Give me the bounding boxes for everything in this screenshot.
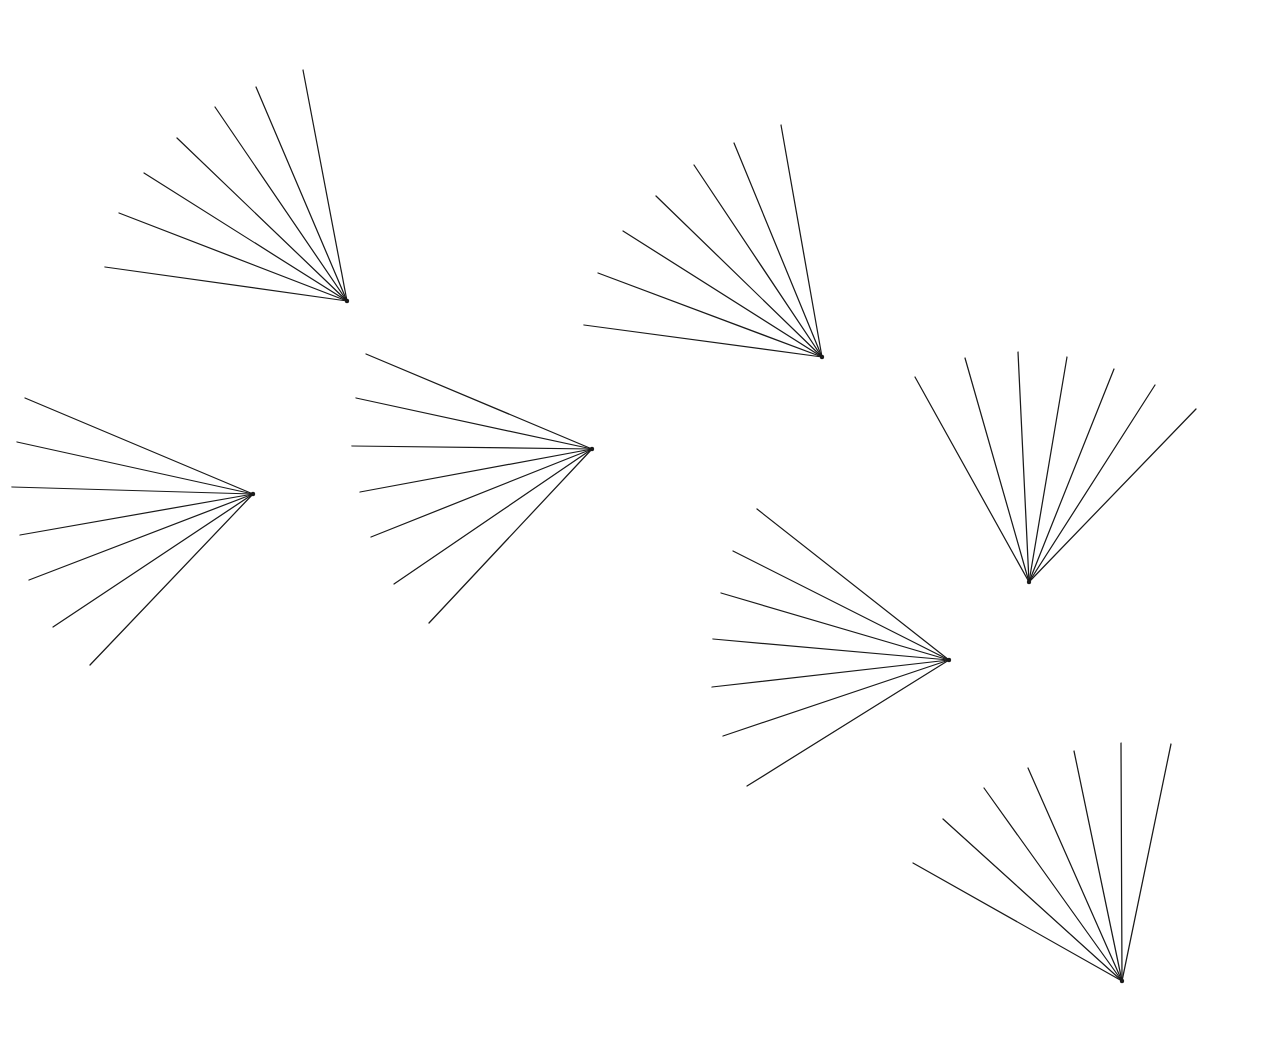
fan-6-vertex — [947, 658, 951, 662]
fan-1-vertex — [345, 299, 349, 303]
fan-2-vertex — [251, 492, 255, 496]
radial-fans-svg — [0, 0, 1274, 1054]
fan-5-vertex — [1027, 580, 1031, 584]
fan-3-vertex — [590, 447, 594, 451]
figure-canvas — [0, 0, 1274, 1054]
fan-7-vertex — [1120, 979, 1124, 983]
fan-4-vertex — [820, 355, 824, 359]
